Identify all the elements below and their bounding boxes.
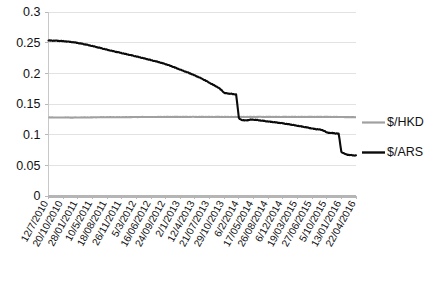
x-axis-tick-labels: 12/7/201020/10/201028/01/201110/5/201118… [19, 198, 358, 248]
legend-label-hkd: $/HKD [387, 115, 424, 129]
y-axis-tick-labels: 00.050.10.150.20.250.3 [16, 5, 40, 203]
y-axis-tick-label: 0.05 [16, 159, 40, 173]
y-axis-tick-label: 0.25 [16, 36, 40, 50]
legend-label-ars: $/ARS [387, 145, 423, 159]
tickmark-group [45, 12, 357, 199]
y-axis-tick-label: 0.3 [23, 5, 40, 19]
y-axis-tick-label: 0.15 [16, 97, 40, 111]
y-axis-tick-label: 0.1 [23, 128, 40, 142]
chart-legend: $/HKD $/ARS [362, 115, 424, 159]
series-line-hkd [49, 117, 357, 118]
chart-container: 00.050.10.150.20.250.3 12/7/201020/10/20… [0, 0, 442, 286]
series-line-ars [49, 40, 357, 155]
line-chart: 00.050.10.150.20.250.3 12/7/201020/10/20… [0, 0, 442, 286]
gridline-group [49, 12, 357, 165]
y-axis-tick-label: 0.2 [23, 67, 40, 81]
